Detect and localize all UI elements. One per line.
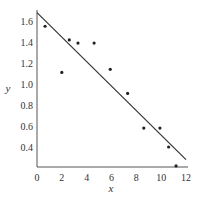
y-tick-label: 1.2 xyxy=(21,58,34,69)
y-tick-label: 1.6 xyxy=(21,16,34,27)
y-tick-label: 0.6 xyxy=(21,121,34,132)
y-tick-label: 1.4 xyxy=(21,37,34,48)
y-tick-label: 1.0 xyxy=(21,79,34,90)
regression-line xyxy=(37,13,186,160)
fit-line xyxy=(37,13,186,160)
y-tick-label: 0.4 xyxy=(21,142,34,153)
x-tick-label: 12 xyxy=(181,172,191,183)
data-point xyxy=(174,164,177,167)
data-point xyxy=(109,68,112,71)
x-tick-label: 4 xyxy=(84,172,89,183)
data-point xyxy=(43,25,46,28)
scatter-chart: 024681012 0.40.60.81.01.21.41.6 x y xyxy=(0,0,204,200)
data-point xyxy=(167,145,170,148)
y-tick-label: 0.8 xyxy=(21,100,34,111)
x-tick-label: 0 xyxy=(35,172,40,183)
x-axis-label: x xyxy=(108,182,114,194)
data-point xyxy=(76,41,79,44)
x-tick-label: 8 xyxy=(134,172,139,183)
data-point xyxy=(60,71,63,74)
x-tick-label: 10 xyxy=(156,172,166,183)
data-point xyxy=(158,127,161,130)
x-tick-label: 2 xyxy=(59,172,64,183)
data-point xyxy=(93,41,96,44)
data-point xyxy=(68,38,71,41)
data-point xyxy=(142,127,145,130)
y-axis-label: y xyxy=(5,82,11,94)
axes xyxy=(37,10,188,167)
data-points xyxy=(43,25,177,168)
data-point xyxy=(126,92,129,95)
y-tick-labels: 0.40.60.81.01.21.41.6 xyxy=(21,16,34,153)
